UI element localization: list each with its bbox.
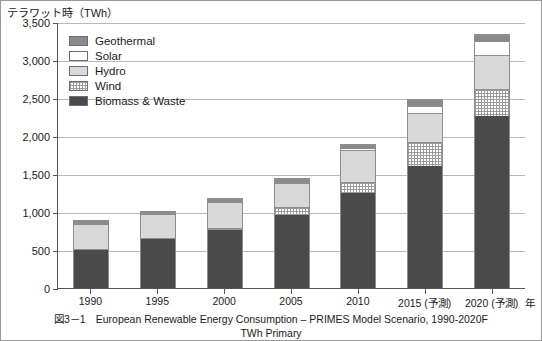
x-axis-labels: 199019952000200520102015 (予測)2020 (予測) (57, 295, 525, 311)
bar-segment[interactable] (341, 182, 375, 193)
stacked-bar[interactable] (407, 99, 443, 288)
bar-slot (191, 23, 258, 288)
bar-segment[interactable] (475, 89, 509, 116)
bar-segment[interactable] (208, 230, 242, 288)
bar-slot (325, 23, 392, 288)
y-axis-tick-label: 500 (32, 245, 50, 257)
swatch-hydro-icon (69, 66, 88, 76)
legend-item[interactable]: Hydro (69, 65, 185, 77)
legend-item-label: Hydro (95, 65, 126, 77)
legend-item[interactable]: Geothermal (69, 35, 185, 47)
bar-segment[interactable] (275, 215, 309, 288)
swatch-geothermal-icon (69, 36, 88, 46)
y-axis-tick-label: 1,000 (22, 207, 50, 219)
stacked-bar[interactable] (140, 211, 176, 288)
x-axis-tick-label: 2015 (予測) (391, 295, 458, 311)
x-axis-tick-label: 2010 (324, 295, 391, 311)
figure-caption: 図3－1European Renewable Energy Consumptio… (1, 312, 541, 340)
chart-legend: GeothermalSolarHydroWindBiomass & Waste (69, 35, 185, 107)
caption-number: 図3－1 (54, 313, 86, 325)
swatch-biomass-icon (69, 96, 88, 106)
y-axis-tick-label: 3,000 (22, 55, 50, 67)
stacked-bar[interactable] (73, 220, 109, 288)
bar-segment[interactable] (74, 224, 108, 249)
bar-segment[interactable] (208, 202, 242, 228)
stacked-bar[interactable] (207, 198, 243, 288)
y-axis-tick-label: 1,500 (22, 169, 50, 181)
legend-item-label: Solar (95, 50, 122, 62)
bar-segment[interactable] (341, 150, 375, 181)
bar-segment[interactable] (475, 41, 509, 55)
legend-item-label: Wind (95, 80, 121, 92)
bar-segment[interactable] (141, 214, 175, 238)
x-axis-tick-label: 2020 (予測) (458, 295, 525, 311)
bar-segment[interactable] (275, 207, 309, 215)
bar-segment[interactable] (408, 113, 442, 142)
bar-segment[interactable] (408, 106, 442, 113)
bar-segment[interactable] (475, 116, 509, 288)
y-axis-tick-label: 3,500 (22, 17, 50, 29)
legend-item-label: Biomass & Waste (95, 95, 185, 107)
bar-segment[interactable] (275, 183, 309, 207)
bar-slot (258, 23, 325, 288)
swatch-solar-icon (69, 51, 88, 61)
stacked-bar[interactable] (274, 178, 310, 288)
legend-item[interactable]: Biomass & Waste (69, 95, 185, 107)
swatch-wind-icon (69, 81, 88, 91)
x-axis-tick-label: 1990 (57, 295, 124, 311)
x-axis-unit-label: 年 (525, 295, 535, 310)
bar-segment[interactable] (475, 55, 509, 88)
caption-title: European Renewable Energy Consumption – … (96, 313, 488, 325)
bar-segment[interactable] (141, 239, 175, 288)
bar-segment[interactable] (408, 142, 442, 166)
legend-item[interactable]: Wind (69, 80, 185, 92)
y-axis-tick-label: 0 (44, 283, 50, 295)
bar-slot (392, 23, 459, 288)
caption-line-1: 図3－1European Renewable Energy Consumptio… (1, 312, 541, 326)
x-axis-tick-label: 2000 (191, 295, 258, 311)
bar-segment[interactable] (74, 250, 108, 288)
stacked-bar[interactable] (340, 144, 376, 288)
stacked-bar[interactable] (474, 34, 510, 288)
legend-item-label: Geothermal (95, 35, 155, 47)
y-axis-tick-label: 2,000 (22, 131, 50, 143)
bar-slot (458, 23, 525, 288)
figure-container: テラワット時（TWh） 3,5003,0002,5002,0001,5001,0… (0, 0, 542, 341)
x-axis-tick-label: 1995 (124, 295, 191, 311)
legend-item[interactable]: Solar (69, 50, 185, 62)
y-axis-tick-label: 2,500 (22, 93, 50, 105)
x-axis-tick-label: 2005 (258, 295, 325, 311)
bar-segment[interactable] (408, 166, 442, 288)
bar-segment[interactable] (341, 193, 375, 288)
caption-line-2: TWh Primary (1, 326, 541, 340)
